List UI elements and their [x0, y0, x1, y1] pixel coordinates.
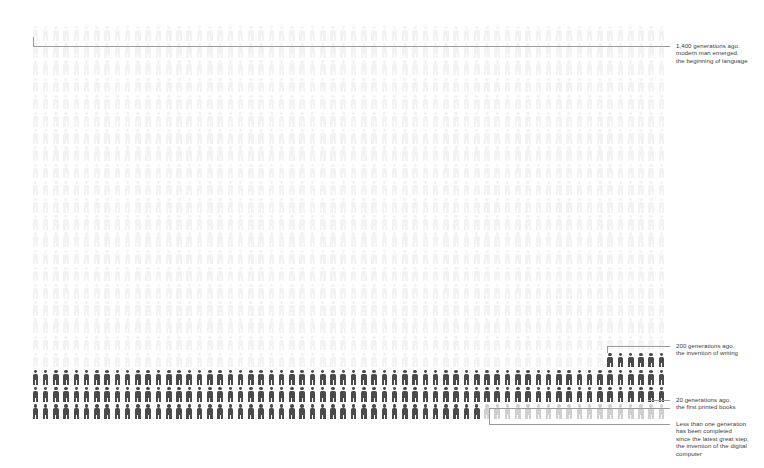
person-figure — [524, 146, 534, 161]
person-figure — [647, 181, 657, 196]
person-figure — [596, 26, 606, 41]
person-figure — [134, 78, 144, 93]
person-figure — [452, 129, 462, 144]
person-figure — [103, 353, 113, 368]
person-figure — [144, 78, 154, 93]
person-figure — [544, 181, 554, 196]
person-figure — [452, 95, 462, 110]
person-figure — [585, 353, 595, 368]
person-figure — [339, 353, 349, 368]
person-figure — [329, 164, 339, 179]
pictogram-row — [31, 26, 667, 42]
pictogram-row — [31, 198, 667, 214]
person-figure — [616, 112, 626, 127]
person-figure — [349, 181, 359, 196]
person-figure — [195, 215, 205, 230]
person-figure — [123, 78, 133, 93]
person-figure — [267, 370, 277, 385]
person-figure — [534, 404, 544, 419]
person-figure — [123, 198, 133, 213]
person-figure — [360, 181, 370, 196]
person-figure — [236, 250, 246, 265]
person-figure — [380, 232, 390, 247]
person-figure — [62, 387, 72, 402]
person-figure — [575, 181, 585, 196]
person-figure — [267, 198, 277, 213]
person-figure — [401, 78, 411, 93]
person-figure — [62, 215, 72, 230]
person-figure — [339, 26, 349, 41]
person-figure — [606, 146, 616, 161]
pictogram-row — [31, 404, 667, 420]
person-figure — [370, 215, 380, 230]
person-figure — [534, 387, 544, 402]
person-figure — [185, 215, 195, 230]
person-figure — [103, 26, 113, 41]
person-figure — [411, 95, 421, 110]
person-figure — [288, 387, 298, 402]
person-figure — [411, 78, 421, 93]
person-figure — [431, 146, 441, 161]
person-figure — [360, 129, 370, 144]
person-figure — [195, 301, 205, 316]
person-figure — [175, 164, 185, 179]
pictogram-row — [31, 318, 667, 334]
person-figure — [360, 95, 370, 110]
person-figure — [647, 267, 657, 282]
person-figure — [41, 60, 51, 75]
person-figure — [524, 95, 534, 110]
person-figure — [534, 146, 544, 161]
person-figure — [421, 267, 431, 282]
person-figure — [195, 250, 205, 265]
person-figure — [483, 164, 493, 179]
person-figure — [349, 215, 359, 230]
person-figure — [421, 336, 431, 351]
person-figure — [349, 164, 359, 179]
person-figure — [41, 215, 51, 230]
annotation-printing-line1: 20 generations ago. — [676, 396, 736, 403]
person-figure — [390, 267, 400, 282]
person-figure — [236, 318, 246, 333]
person-figure — [247, 164, 257, 179]
person-figure — [144, 215, 154, 230]
person-figure — [175, 95, 185, 110]
annotation-language: 1,400 generations ago. modern man emerge… — [676, 42, 748, 64]
person-figure — [544, 26, 554, 41]
person-figure — [626, 318, 636, 333]
person-figure — [616, 336, 626, 351]
person-figure — [277, 370, 287, 385]
pictogram-grid — [31, 26, 671, 422]
person-figure — [175, 404, 185, 419]
person-figure — [503, 336, 513, 351]
person-figure — [52, 370, 62, 385]
person-figure — [565, 181, 575, 196]
person-figure — [380, 284, 390, 299]
person-figure — [298, 198, 308, 213]
person-figure — [637, 267, 647, 282]
person-figure — [31, 181, 41, 196]
person-figure — [298, 353, 308, 368]
person-figure — [267, 181, 277, 196]
person-figure — [216, 215, 226, 230]
person-figure — [318, 215, 328, 230]
person-figure — [452, 26, 462, 41]
person-figure — [298, 301, 308, 316]
person-figure — [616, 404, 626, 419]
person-figure — [113, 215, 123, 230]
person-figure — [298, 112, 308, 127]
person-figure — [544, 95, 554, 110]
person-figure — [452, 232, 462, 247]
person-figure — [318, 336, 328, 351]
person-figure — [267, 301, 277, 316]
person-figure — [277, 146, 287, 161]
person-figure — [596, 215, 606, 230]
person-figure — [483, 26, 493, 41]
person-figure — [452, 215, 462, 230]
person-figure — [257, 370, 267, 385]
person-figure — [544, 146, 554, 161]
person-figure — [62, 318, 72, 333]
person-figure — [267, 250, 277, 265]
person-figure — [216, 95, 226, 110]
person-figure — [493, 370, 503, 385]
person-figure — [154, 267, 164, 282]
